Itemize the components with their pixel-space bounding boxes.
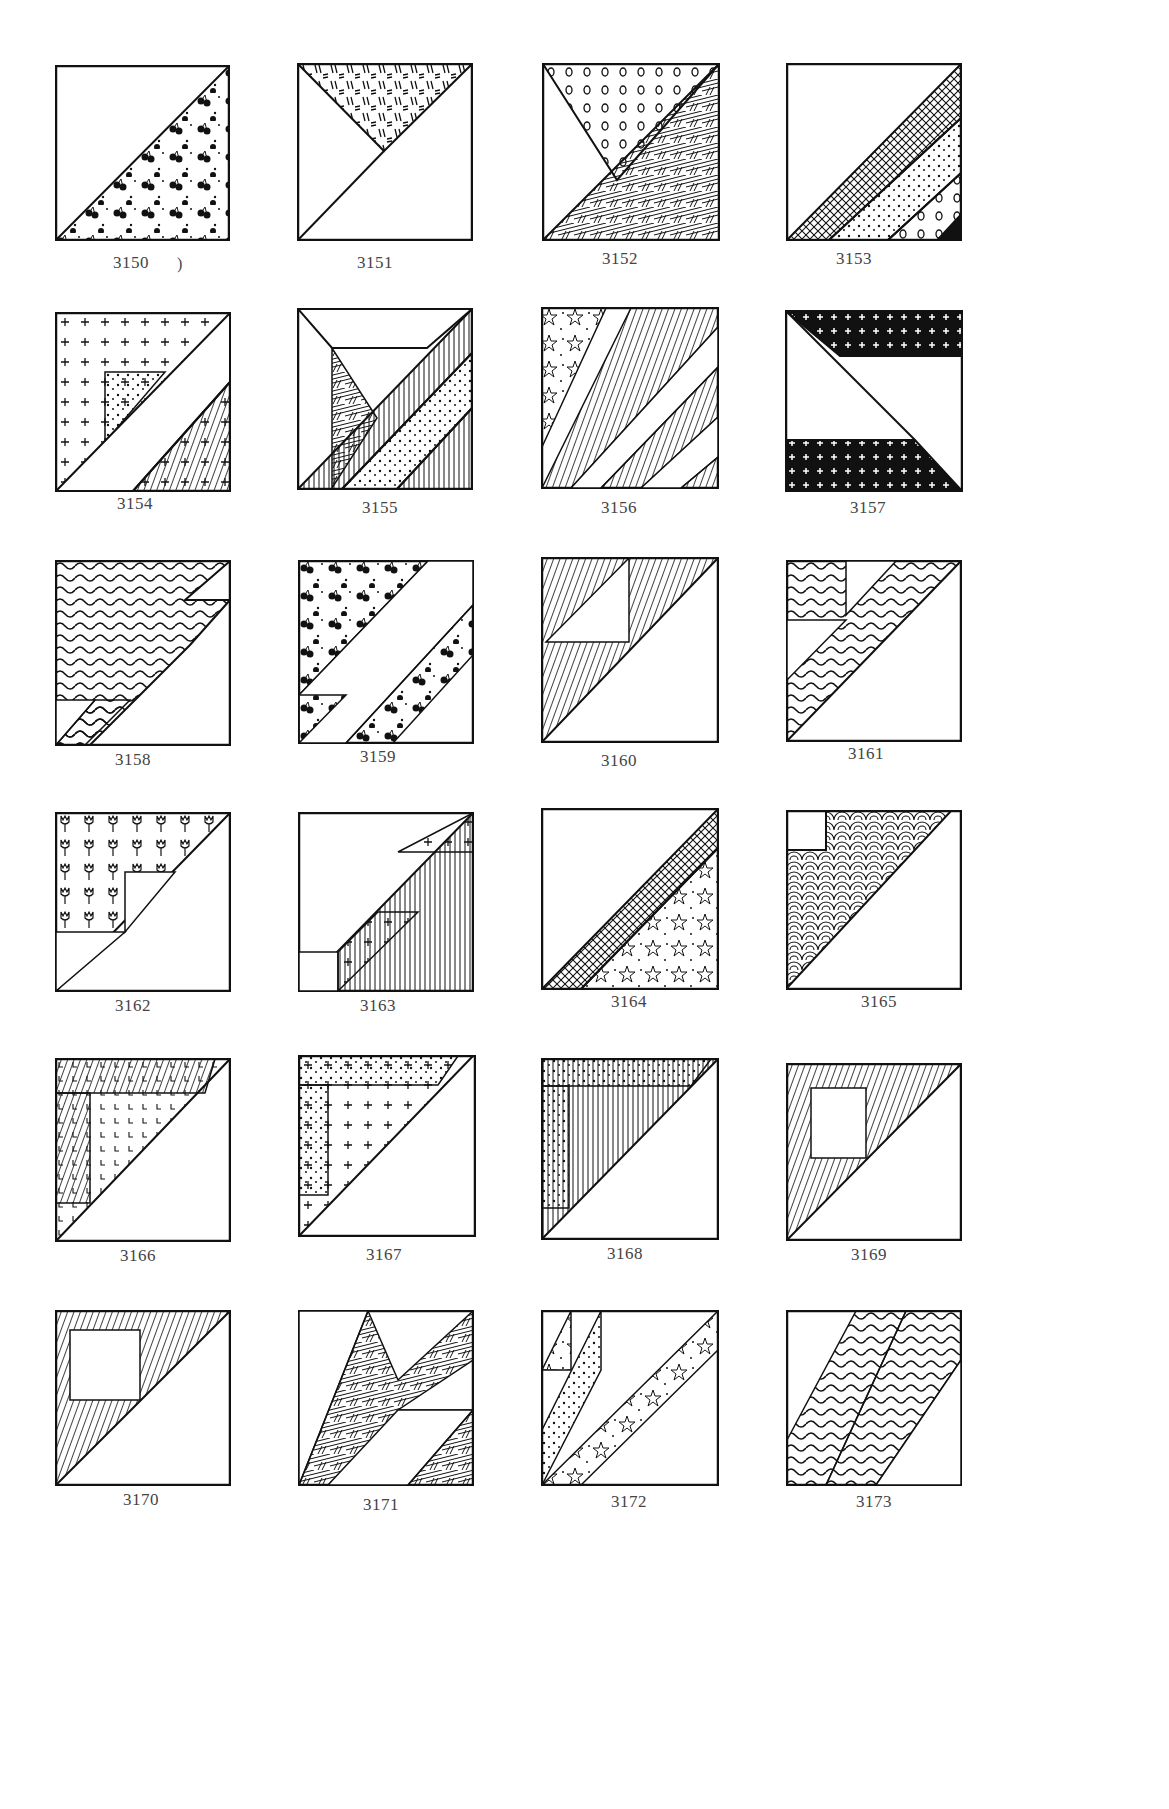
block-number-3167: 3167: [366, 1245, 402, 1265]
quilt-diagram-3171: [298, 1310, 474, 1486]
quilt-block-3165: 3165: [786, 810, 962, 1020]
quilt-block-3168: 3168: [541, 1058, 719, 1268]
block-number-3171: 3171: [363, 1495, 399, 1515]
block-number-3150: 3150: [113, 253, 149, 273]
quilt-diagram-3156: [541, 307, 719, 489]
block-number-3155: 3155: [362, 498, 398, 518]
block-number-3168: 3168: [607, 1244, 643, 1264]
quilt-block-3169: 3169: [786, 1063, 962, 1273]
quilt-block-3161: 3161: [786, 560, 962, 775]
quilt-block-3160: 3160: [541, 557, 719, 772]
quilt-block-3162: 3162: [55, 812, 231, 1022]
quilt-block-3164: 3164: [541, 808, 719, 1018]
quilt-diagram-3153: [786, 63, 962, 241]
quilt-diagram-3166: [55, 1058, 231, 1242]
quilt-diagram-3151: [297, 63, 473, 241]
block-number-3170: 3170: [123, 1490, 159, 1510]
block-number-3172: 3172: [611, 1492, 647, 1512]
quilt-block-3156: 3156: [541, 307, 719, 522]
quilt-diagram-3168: [541, 1058, 719, 1240]
quilt-block-3172: 3172: [541, 1310, 719, 1520]
quilt-block-3155: 3155: [297, 308, 473, 523]
block-number-3162: 3162: [115, 996, 151, 1016]
quilt-block-3166: 3166: [55, 1058, 231, 1268]
quilt-block-3157: 3157: [785, 310, 963, 525]
stray-mark: ): [177, 255, 182, 273]
quilt-diagram-3150: [55, 65, 230, 241]
block-number-3164: 3164: [611, 992, 647, 1012]
block-number-3157: 3157: [850, 498, 886, 518]
block-number-3169: 3169: [851, 1245, 887, 1265]
quilt-diagram-3163: [298, 812, 474, 992]
quilt-block-3151: 3151: [297, 63, 473, 278]
block-number-3160: 3160: [601, 751, 637, 771]
block-number-3152: 3152: [602, 249, 638, 269]
quilt-diagram-3164: [541, 808, 719, 990]
quilt-diagram-3169: [786, 1063, 962, 1241]
quilt-diagram-3158: [55, 560, 231, 746]
quilt-diagram-3152: [542, 63, 720, 241]
quilt-diagram-3157: [785, 310, 963, 492]
quilt-block-3150: 3150 ): [55, 65, 230, 280]
block-number-3159: 3159: [360, 747, 396, 767]
block-number-3163: 3163: [360, 996, 396, 1016]
block-number-3165: 3165: [861, 992, 897, 1012]
quilt-block-3170: 3170: [55, 1310, 231, 1520]
quilt-block-3152: 3152: [542, 63, 720, 278]
quilt-diagram-3173: [786, 1310, 962, 1486]
quilt-diagram-3161: [786, 560, 962, 742]
block-number-3156: 3156: [601, 498, 637, 518]
quilt-block-3159: 3159: [298, 560, 474, 775]
quilt-diagram-3159: [298, 560, 474, 744]
quilt-diagram-3172: [541, 1310, 719, 1486]
block-number-3151: 3151: [357, 253, 393, 273]
block-number-3161: 3161: [848, 744, 884, 764]
quilt-diagram-3167: [298, 1055, 476, 1237]
quilt-diagram-3160: [541, 557, 719, 743]
block-number-3153: 3153: [836, 249, 872, 269]
quilt-block-3154: 3154: [55, 312, 231, 522]
quilt-block-3158: 3158: [55, 560, 231, 775]
block-number-3173: 3173: [856, 1492, 892, 1512]
quilt-diagram-3155: [297, 308, 473, 490]
quilt-block-3163: 3163: [298, 812, 474, 1022]
quilt-block-3173: 3173: [786, 1310, 962, 1520]
quilt-diagram-3162: [55, 812, 231, 992]
quilt-diagram-3165: [786, 810, 962, 990]
block-number-3154: 3154: [117, 494, 153, 514]
quilt-block-3171: 3171: [298, 1310, 474, 1520]
block-number-3158: 3158: [115, 750, 151, 770]
quilt-block-3153: 3153: [786, 63, 962, 278]
quilt-diagram-3170: [55, 1310, 231, 1486]
quilt-diagram-3154: [55, 312, 231, 492]
block-number-3166: 3166: [120, 1246, 156, 1266]
quilt-block-3167: 3167: [298, 1055, 476, 1265]
